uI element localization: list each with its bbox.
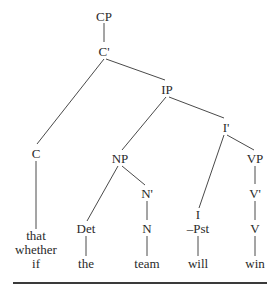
node-i: I: [196, 207, 200, 222]
leaf-whether: whether: [15, 242, 58, 257]
leaf-the: the: [78, 256, 94, 271]
node-v: V: [250, 221, 260, 236]
leaf-will: will: [188, 256, 209, 271]
edge-np-nbar: [122, 166, 145, 185]
tree-nodes: CP C' IP I' C NP VP N' V' I –Pst Det N V…: [15, 9, 265, 271]
node-cp: CP: [96, 9, 112, 24]
edge-ibar-vp: [227, 135, 254, 150]
node-det: Det: [77, 221, 96, 236]
edge-np-det: [87, 166, 118, 221]
node-c: C: [32, 146, 41, 161]
node-n: N: [142, 221, 152, 236]
edge-cbar-c: [37, 59, 104, 144]
syntax-tree-diagram: CP C' IP I' C NP VP N' V' I –Pst Det N V…: [0, 0, 279, 292]
leaf-if: if: [32, 256, 41, 271]
node-i-bar: I': [223, 120, 230, 135]
node-vp: VP: [247, 151, 264, 166]
leaf-team: team: [134, 256, 159, 271]
node-i-feature: –Pst: [186, 221, 210, 236]
leaf-that: that: [26, 228, 46, 243]
node-v-bar: V': [249, 186, 261, 201]
node-c-bar: C': [98, 44, 109, 59]
edge-cbar-ip: [106, 59, 165, 80]
edge-ip-ibar: [169, 97, 224, 118]
leaf-win: win: [245, 256, 265, 271]
edge-ip-np: [122, 97, 166, 150]
node-n-bar: N': [141, 186, 153, 201]
node-ip: IP: [161, 82, 173, 97]
edge-ibar-i: [199, 135, 224, 208]
node-np: NP: [112, 151, 129, 166]
